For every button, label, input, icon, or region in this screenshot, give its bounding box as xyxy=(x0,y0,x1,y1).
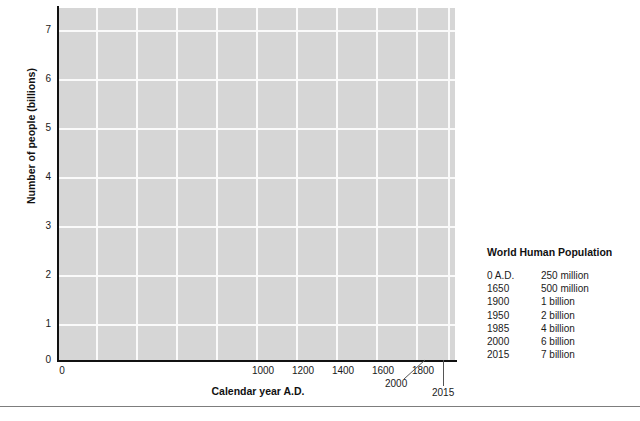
table-cell-year: 1950 xyxy=(487,309,541,322)
horizontal-gridlines xyxy=(58,8,455,360)
table-cell-population: 2 billion xyxy=(541,309,637,322)
table-cell-population: 1 billion xyxy=(541,295,637,308)
table-row: 0 A.D. 250 million xyxy=(487,269,637,282)
table-cell-population: 7 billion xyxy=(541,348,637,361)
table-row: 1985 4 billion xyxy=(487,322,637,335)
table-row: 2000 6 billion xyxy=(487,335,637,348)
gridline-h xyxy=(58,79,455,81)
x-axis-line xyxy=(57,360,457,362)
table-cell-year: 2000 xyxy=(487,335,541,348)
leader-line-2000-icon xyxy=(400,360,426,380)
x-axis-tick-2015: 2015 xyxy=(432,387,454,398)
gridline-h xyxy=(58,226,455,228)
table-cell-year: 1650 xyxy=(487,282,541,295)
gridline-h xyxy=(58,177,455,179)
gridline-h xyxy=(58,30,455,32)
y-axis-tick-2: 2 xyxy=(11,270,51,280)
table-cell-year: 2015 xyxy=(487,348,541,361)
population-table: World Human Population 0 A.D. 250 millio… xyxy=(487,246,637,361)
gridline-h xyxy=(58,275,455,277)
y-axis-title: Number of people (billions) xyxy=(25,41,37,231)
x-axis-tick-2000: 2000 xyxy=(385,378,407,389)
bottom-divider xyxy=(0,406,640,407)
gridline-h xyxy=(58,324,455,326)
table-cell-year: 1985 xyxy=(487,322,541,335)
table-cell-year: 0 A.D. xyxy=(487,269,541,282)
population-figure: 7 6 5 4 3 2 1 0 Number of people (billio… xyxy=(0,0,640,421)
x-axis-tick-0: 0 xyxy=(32,365,92,376)
population-table-title: World Human Population xyxy=(487,246,637,258)
table-row: 1950 2 billion xyxy=(487,309,637,322)
x-axis-tickmark-2015 xyxy=(443,360,444,386)
y-axis-tick-7: 7 xyxy=(11,25,51,35)
y-axis-tick-0: 0 xyxy=(11,355,51,365)
gridline-h xyxy=(58,128,455,130)
table-cell-population: 250 million xyxy=(541,269,637,282)
table-row: 1900 1 billion xyxy=(487,295,637,308)
table-cell-population: 4 billion xyxy=(541,322,637,335)
y-axis-tick-1: 1 xyxy=(11,319,51,329)
table-cell-population: 6 billion xyxy=(541,335,637,348)
table-row: 1650 500 million xyxy=(487,282,637,295)
x-axis-title: Calendar year A.D. xyxy=(148,385,368,397)
table-row: 2015 7 billion xyxy=(487,348,637,361)
chart-plot-area xyxy=(58,8,455,360)
y-axis-line xyxy=(57,6,59,362)
table-cell-population: 500 million xyxy=(541,282,637,295)
table-cell-year: 1900 xyxy=(487,295,541,308)
